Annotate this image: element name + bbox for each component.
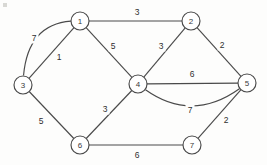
node-label-1: 1 — [78, 17, 83, 26]
node-3[interactable]: 3 — [14, 76, 32, 94]
node-1[interactable]: 1 — [71, 12, 89, 30]
edge-weight-1-4: 5 — [111, 41, 116, 51]
edge-2-4 — [144, 28, 185, 77]
node-label-3: 3 — [21, 81, 26, 90]
edge-weight-5-7: 2 — [224, 115, 229, 125]
edge-3-6 — [29, 92, 74, 139]
edge-weight-3-6: 5 — [39, 116, 44, 126]
edge-weight-1-2: 3 — [135, 7, 140, 17]
node-label-6: 6 — [78, 141, 83, 150]
edge-4-5-curved — [146, 89, 240, 106]
node-2[interactable]: 2 — [182, 12, 200, 30]
node-label-7: 7 — [190, 141, 195, 150]
node-5[interactable]: 5 — [238, 74, 256, 92]
edge-4-5 — [147, 83, 238, 84]
edge-weight-4-5: 7 — [188, 105, 193, 115]
edge-weight-2-5: 2 — [220, 40, 225, 50]
edge-weight-6-7: 6 — [135, 150, 140, 160]
node-label-5: 5 — [245, 79, 250, 88]
edge-weight-1-3: 1 — [57, 52, 62, 62]
edge-weight-4-6: 3 — [103, 104, 108, 114]
node-6[interactable]: 6 — [71, 136, 89, 154]
graph-diagram-canvas: 3715325673261234567 — [0, 0, 267, 165]
edge-weight-4-5: 6 — [190, 69, 195, 79]
edge-2-5 — [197, 28, 241, 77]
edge-1-4 — [86, 28, 132, 78]
edge-weight-1-3: 7 — [32, 33, 37, 43]
edge-weight-2-4: 3 — [159, 41, 164, 51]
node-label-4: 4 — [136, 80, 141, 89]
edge-5-7 — [198, 90, 241, 139]
edge-1-3-curved — [24, 21, 71, 75]
node-7[interactable]: 7 — [183, 136, 201, 154]
node-label-2: 2 — [189, 17, 194, 26]
graph-svg: 3715325673261234567 — [0, 0, 267, 165]
node-4[interactable]: 4 — [129, 75, 147, 93]
